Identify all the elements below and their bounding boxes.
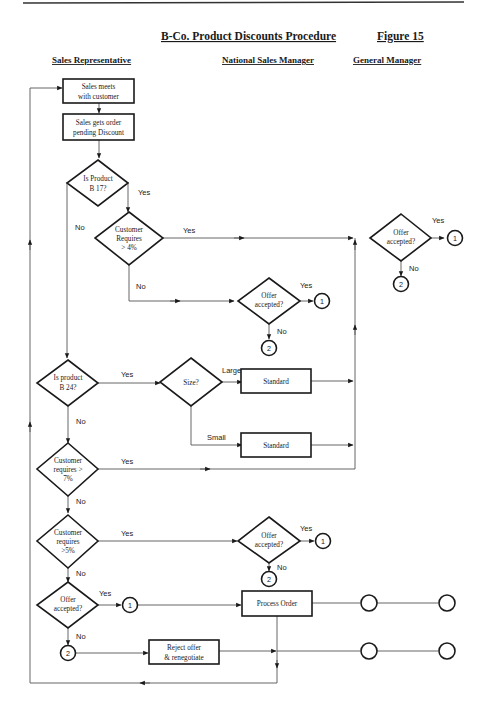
- node-label: Customer: [54, 457, 83, 465]
- edge-label-large: Large: [222, 366, 241, 375]
- node-label: accepted?: [255, 541, 283, 549]
- edge-label-yes: Yes: [121, 370, 133, 379]
- edge-label-no: No: [277, 563, 287, 572]
- decision-size[interactable]: Size?: [160, 358, 222, 406]
- edge-label-no: No: [409, 264, 419, 273]
- node-label: B 17?: [90, 185, 107, 193]
- node-label: with customer: [78, 93, 120, 101]
- lane-sales-representative: Sales Representative: [52, 55, 131, 65]
- connector-label: 2: [267, 575, 271, 584]
- node-label: & renegotiate: [164, 654, 203, 662]
- edge-label-no: No: [76, 569, 86, 578]
- node-label: Customer: [54, 529, 83, 537]
- node-sales-meets-customer[interactable]: Sales meets with customer: [63, 79, 134, 103]
- node-reject-offer[interactable]: Reject offer & renegotiate: [149, 640, 219, 664]
- node-label: 7%: [63, 475, 73, 483]
- edge-label-no: No: [75, 223, 85, 232]
- decision-is-product-b24[interactable]: Is product B 24?: [37, 360, 98, 406]
- node-label: Sales gets order: [76, 119, 122, 127]
- edge-label-no: No: [277, 327, 287, 336]
- node-label: Offer: [261, 532, 277, 540]
- node-label: B 24?: [60, 384, 77, 392]
- decision-customer-requires-4pct[interactable]: Customer Requires > 4%: [95, 212, 163, 265]
- edge-label-yes: Yes: [121, 457, 133, 466]
- connector-label: 1: [320, 297, 324, 306]
- edge-label-no: No: [136, 282, 146, 291]
- decision-customer-requires-7pct[interactable]: Customer requires > 7%: [37, 443, 98, 496]
- node-label: Offer: [393, 229, 409, 237]
- end-circle-process-1[interactable]: [361, 595, 377, 611]
- node-label: requires >: [54, 466, 83, 474]
- edge-label-yes: Yes: [121, 529, 133, 538]
- node-label: accepted?: [255, 301, 283, 309]
- top-rule: [23, 2, 464, 3]
- node-label: accepted?: [387, 238, 415, 246]
- edge-label-yes: Yes: [300, 524, 312, 533]
- end-circle-reject-1[interactable]: [361, 643, 377, 659]
- edge-label-yes: Yes: [138, 188, 150, 197]
- connector-2-gm[interactable]: 2: [394, 277, 409, 292]
- node-label: pending Discount: [73, 129, 124, 137]
- connector-label: 1: [321, 537, 325, 546]
- connector-label: 2: [399, 280, 403, 289]
- edge-label-no: No: [76, 632, 86, 641]
- end-circle-reject-2[interactable]: [439, 643, 455, 659]
- connector-label: 2: [267, 344, 271, 353]
- lane-national-sales-manager: National Sales Manager: [222, 55, 314, 65]
- node-standard-small[interactable]: Standard: [241, 433, 311, 457]
- connector-1-sr[interactable]: 1: [123, 598, 138, 613]
- connector-1-nsm1[interactable]: 1: [315, 294, 330, 309]
- edge-label-no: No: [76, 497, 86, 506]
- node-label: >5%: [61, 547, 75, 555]
- node-label: Offer: [60, 596, 76, 604]
- connector-2-nsm1[interactable]: 2: [262, 341, 277, 356]
- node-label: Process Order: [257, 600, 298, 608]
- decision-is-product-b17[interactable]: Is Product B 17?: [67, 160, 128, 206]
- decision-nsm-offer-accepted-2[interactable]: Offer accepted?: [238, 517, 300, 563]
- edge-label-small: Small: [207, 433, 226, 442]
- decision-nsm-offer-accepted-1[interactable]: Offer accepted?: [238, 278, 300, 324]
- node-label: Requires: [116, 235, 142, 243]
- decision-gm-offer-accepted[interactable]: Offer accepted?: [370, 214, 431, 261]
- figure-label: Figure 15: [377, 30, 424, 43]
- node-standard-large[interactable]: Standard: [241, 369, 311, 393]
- edge-label-yes: Yes: [432, 216, 444, 225]
- node-label: Is Product: [83, 175, 112, 183]
- connector-label: 2: [66, 649, 70, 658]
- node-process-order[interactable]: Process Order: [242, 591, 312, 616]
- node-label: Sales meets: [82, 83, 116, 91]
- node-label: Standard: [263, 378, 289, 386]
- node-label: Customer: [115, 226, 144, 234]
- node-label: Standard: [263, 442, 289, 450]
- node-label: Is product: [54, 374, 83, 382]
- lane-general-manager: General Manager: [353, 55, 421, 65]
- edge-label-yes: Yes: [99, 589, 111, 598]
- edge-label-no: No: [76, 417, 86, 426]
- node-label: Offer: [261, 292, 277, 300]
- flowchart-canvas: B-Co. Product Discounts Procedure Figure…: [0, 0, 486, 710]
- connector-label: 1: [128, 601, 132, 610]
- node-sales-gets-order[interactable]: Sales gets order pending Discount: [63, 114, 134, 140]
- edge-label-yes: Yes: [300, 281, 312, 290]
- connector-label: 1: [453, 234, 457, 243]
- node-label: requires: [56, 538, 79, 546]
- node-label: Reject offer: [167, 644, 202, 652]
- connector-2-nsm2[interactable]: 2: [262, 572, 277, 587]
- end-circle-process-2[interactable]: [439, 595, 455, 611]
- decision-sr-offer-accepted[interactable]: Offer accepted?: [37, 582, 98, 628]
- connector-1-gm[interactable]: 1: [448, 231, 463, 246]
- edge-label-yes: Yes: [183, 226, 195, 235]
- node-label: Size?: [183, 379, 199, 387]
- page-title: B-Co. Product Discounts Procedure: [161, 30, 336, 42]
- connector-1-nsm2[interactable]: 1: [316, 534, 331, 549]
- connector-2-sr[interactable]: 2: [61, 646, 76, 661]
- decision-customer-requires-5pct[interactable]: Customer requires >5%: [37, 515, 98, 568]
- node-label: > 4%: [121, 244, 136, 252]
- node-label: accepted?: [54, 605, 82, 613]
